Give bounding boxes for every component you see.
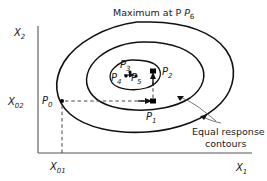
y-tick-label-subscript: 02 <box>15 102 24 110</box>
response-surface-figure: Maximum at PP6 X2 X1 X02 X01 <box>0 0 267 181</box>
x-axis-label-subscript: 1 <box>243 168 247 176</box>
point-label-p3-subscript: 3 <box>126 65 130 73</box>
point-label-p5-subscript: 5 <box>137 78 142 86</box>
svg-text:Maximum at PP6: Maximum at PP6 <box>113 7 195 21</box>
point-label-p0: P0 <box>42 95 53 109</box>
svg-text:P2: P2 <box>162 66 173 80</box>
contour-annotation-line1: Equal response <box>192 126 265 137</box>
point-label-p1-subscript: 1 <box>152 117 156 125</box>
y-axis-label: X2 <box>13 27 26 41</box>
contour-annotation-line2: contours <box>205 138 247 149</box>
point-label-p3: P3 <box>120 59 131 73</box>
svg-text:X02: X02 <box>7 96 24 110</box>
point-label-p5: P5 <box>131 72 142 86</box>
svg-text:X2: X2 <box>13 27 26 41</box>
x-axis-label: X1 <box>235 162 247 176</box>
y-tick-label: X02 <box>7 96 24 110</box>
x-tick-label: X01 <box>49 161 66 175</box>
svg-text:P3: P3 <box>120 59 131 73</box>
point-label-p1: P1 <box>146 111 157 125</box>
contour-annotation: Equal response contours <box>192 126 265 149</box>
svg-text:P1: P1 <box>146 111 157 125</box>
title-text: Maximum at P <box>113 7 181 18</box>
svg-text:X01: X01 <box>49 161 66 175</box>
figure-canvas: Maximum at PP6 X2 X1 X02 X01 <box>0 0 267 181</box>
point-label-p4-subscript: 4 <box>117 78 121 86</box>
figure-title: Maximum at PP6 <box>113 7 195 21</box>
point-markers-group <box>60 69 156 104</box>
point-marker-p2 <box>150 69 156 74</box>
point-label-p0-subscript: 0 <box>48 101 53 109</box>
title-subscript: 6 <box>190 13 195 21</box>
x-tick-label-subscript: 01 <box>57 167 66 175</box>
point-marker-p4 <box>124 74 127 77</box>
point-label-p2-subscript: 2 <box>168 72 173 80</box>
point-marker-p0 <box>60 99 64 103</box>
point-marker-p1 <box>150 99 156 104</box>
point-label-p2: P2 <box>162 66 173 80</box>
svg-text:X1: X1 <box>235 162 247 176</box>
svg-text:P0: P0 <box>42 95 53 109</box>
svg-text:P5: P5 <box>131 72 142 86</box>
y-axis-label-subscript: 2 <box>21 33 26 41</box>
construction-lines-group <box>62 74 153 153</box>
